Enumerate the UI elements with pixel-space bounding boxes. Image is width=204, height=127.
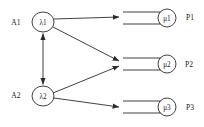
edge-lambda1-to-P2 [53,27,119,61]
server-label-mu3: μ3 [163,104,171,112]
queue-station-P1: μ1 P1 [123,9,194,27]
queue-station-P2: μ2 P2 [123,55,193,73]
server-label-mu1: μ1 [163,15,171,23]
server-label-mu2: μ2 [163,61,171,69]
edge-lambda2-to-P3 [54,98,119,107]
source-label-A2: A2 [11,91,20,100]
router-node-lambda1: λ1 [32,12,54,32]
queue-station-P3: μ3 P3 [123,98,194,116]
edge-lambda1-to-P1 [54,17,119,19]
edge-lambda2-to-P2 [53,66,119,93]
source-label-A1: A1 [11,18,20,27]
station-label-P1: P1 [186,13,194,22]
station-label-P3: P3 [186,103,194,112]
queueing-network-diagram: μ1 P1 μ2 P2 μ3 P3 λ1 λ2 [0,0,204,127]
station-label-P2: P2 [185,60,193,69]
node-label-lambda1: λ1 [39,19,46,27]
router-node-lambda2: λ2 [32,86,54,106]
diagram-canvas: μ1 P1 μ2 P2 μ3 P3 λ1 λ2 [0,0,204,127]
node-label-lambda2: λ2 [39,93,46,101]
